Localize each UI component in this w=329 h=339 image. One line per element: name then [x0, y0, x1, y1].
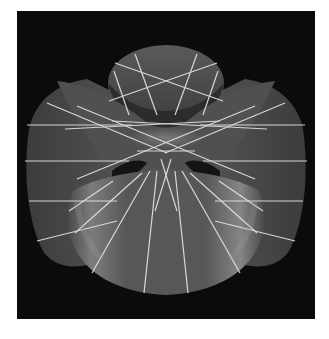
render-panel [17, 11, 315, 319]
figure [0, 0, 329, 339]
bottom-bowl-surface [68, 169, 264, 295]
figure-caption [70, 333, 270, 339]
ruled-surface-illustration [17, 11, 315, 319]
